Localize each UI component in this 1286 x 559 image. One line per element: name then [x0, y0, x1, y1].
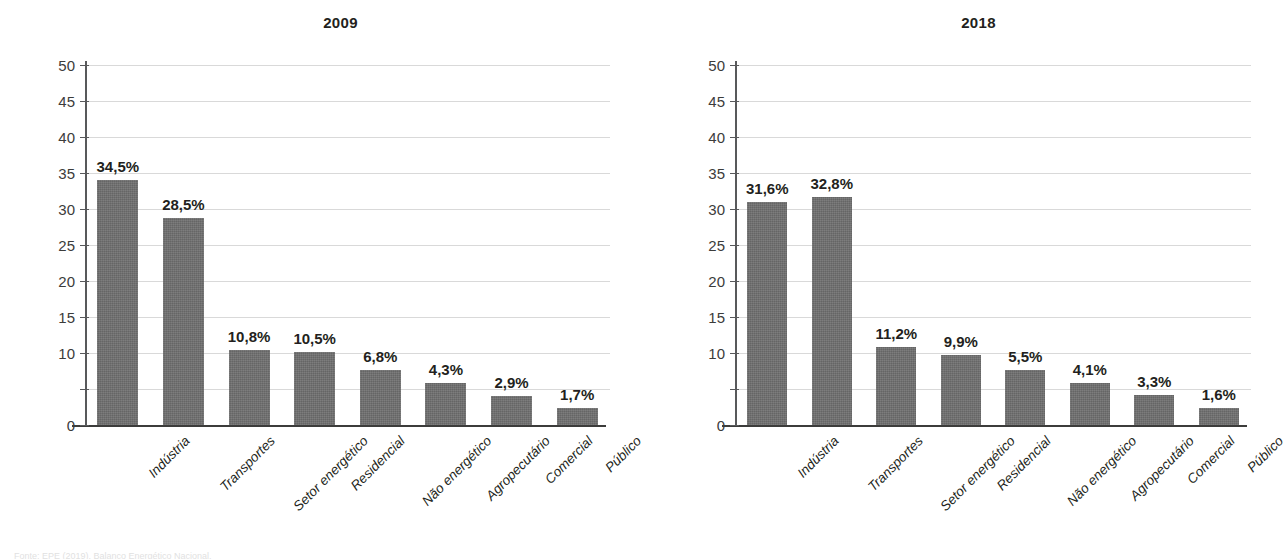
chart-title-2009: 2009 [0, 14, 639, 31]
x-axis-line [72, 425, 606, 427]
bar [360, 370, 401, 425]
y-axis-tick-label: 50 [41, 58, 75, 73]
y-axis-tick [730, 65, 739, 66]
y-axis-tick-label: 10 [41, 346, 75, 361]
gridline [85, 65, 610, 66]
bar-value-label: 9,9% [927, 334, 995, 349]
gridline [85, 137, 610, 138]
y-axis-tick [730, 389, 739, 390]
y-axis-tick [730, 173, 739, 174]
footer-partial-text: Fonte: EPE (2019). Balanço Energético Na… [14, 551, 444, 559]
bar [491, 396, 532, 425]
y-axis-tick-label: 45 [41, 94, 75, 109]
bar-value-label: 28,5% [149, 197, 218, 212]
y-axis-tick-label: 35 [41, 166, 75, 181]
bar [557, 408, 598, 425]
bar [1070, 383, 1110, 425]
bar-value-label: 4,3% [411, 362, 480, 377]
y-axis-tick [730, 209, 739, 210]
bar-value-label: 10,5% [280, 331, 349, 346]
y-axis-tick [730, 281, 739, 282]
gridline [735, 65, 1251, 66]
bar-value-label: 32,8% [798, 176, 866, 191]
bar-value-label: 10,8% [215, 329, 284, 344]
chart-title-2018: 2018 [639, 14, 1278, 31]
bar [1134, 395, 1174, 425]
x-axis-category-label: Indústria [146, 434, 192, 480]
gridline [85, 173, 610, 174]
x-axis-category-label: Não energético [420, 434, 494, 508]
y-axis-tick-label: 40 [41, 130, 75, 145]
y-axis-tick-label: 15 [691, 310, 725, 325]
y-axis-tick [80, 65, 89, 66]
x-axis-category-label: Transportes [865, 434, 925, 494]
gridline [735, 173, 1251, 174]
y-axis-tick [730, 353, 739, 354]
bar-value-label: 6,8% [346, 349, 415, 364]
y-axis-tick [80, 425, 89, 426]
y-axis-tick [80, 101, 89, 102]
y-axis-tick-label: 10 [691, 346, 725, 361]
y-axis-tick-label: 25 [41, 238, 75, 253]
y-axis-tick-label: 35 [691, 166, 725, 181]
y-axis-tick [730, 245, 739, 246]
bar [812, 197, 852, 425]
y-axis-tick [80, 281, 89, 282]
x-axis-category-label: Indústria [795, 434, 841, 480]
y-axis-tick-label: 15 [41, 310, 75, 325]
y-axis-line [85, 61, 87, 425]
bar-value-label: 3,3% [1120, 374, 1188, 389]
bar-value-label: 5,5% [991, 349, 1059, 364]
bar-value-label: 11,2% [862, 326, 930, 341]
y-axis-tick [80, 245, 89, 246]
y-axis-tick-label: 0 [691, 418, 725, 433]
y-axis-tick-label: 20 [691, 274, 725, 289]
gridline [85, 101, 610, 102]
y-axis-tick [80, 137, 89, 138]
x-axis-category-label: Público [1245, 434, 1286, 475]
bar [1005, 370, 1045, 425]
plot-area-2018: 504540353025201510031,6%Indústria32,8%Tr… [735, 65, 1251, 425]
y-axis-line [735, 61, 737, 425]
bar [1199, 408, 1239, 425]
y-axis-tick [80, 353, 89, 354]
y-axis-tick [730, 137, 739, 138]
y-axis-tick-label: 30 [41, 202, 75, 217]
gridline [735, 137, 1251, 138]
bar-value-label: 4,1% [1056, 362, 1124, 377]
bar [747, 202, 787, 425]
bar [425, 383, 466, 425]
bar [876, 347, 916, 425]
bar [941, 355, 981, 425]
plot-area-2009: 504540353025201510034,5%Indústria28,5%Tr… [85, 65, 610, 425]
y-axis-tick-label: 50 [691, 58, 725, 73]
x-axis-category-label: Agropecutário [484, 434, 553, 503]
gridline [735, 101, 1251, 102]
x-axis-category-label: Não energético [1065, 434, 1139, 508]
bar-value-label: 2,9% [477, 375, 546, 390]
bar [294, 352, 335, 425]
y-axis-tick-label: 20 [41, 274, 75, 289]
y-axis-tick-label: 40 [691, 130, 725, 145]
bar-value-label: 31,6% [733, 181, 801, 196]
y-axis-tick-label: 0 [41, 418, 75, 433]
y-axis-tick-label: 30 [691, 202, 725, 217]
y-axis-tick [730, 425, 739, 426]
x-axis-category-label: Transportes [217, 434, 277, 494]
y-axis-tick [730, 317, 739, 318]
y-axis-tick-label: 45 [691, 94, 725, 109]
chart-panel-2009: 2009 504540353025201510034,5%Indústria28… [0, 0, 639, 559]
x-axis-category-label: Público [603, 434, 644, 475]
bar [97, 180, 138, 425]
y-axis-tick [80, 317, 89, 318]
bar-value-label: 34,5% [83, 159, 152, 174]
bar-value-label: 1,7% [543, 387, 612, 402]
y-axis-tick-label: 25 [691, 238, 725, 253]
y-axis-tick [730, 101, 739, 102]
bar [229, 350, 270, 425]
y-axis-tick [80, 209, 89, 210]
x-axis-line [722, 425, 1247, 427]
y-axis-tick [80, 389, 89, 390]
chart-panel-2018: 2018 504540353025201510031,6%Indústria32… [639, 0, 1278, 559]
